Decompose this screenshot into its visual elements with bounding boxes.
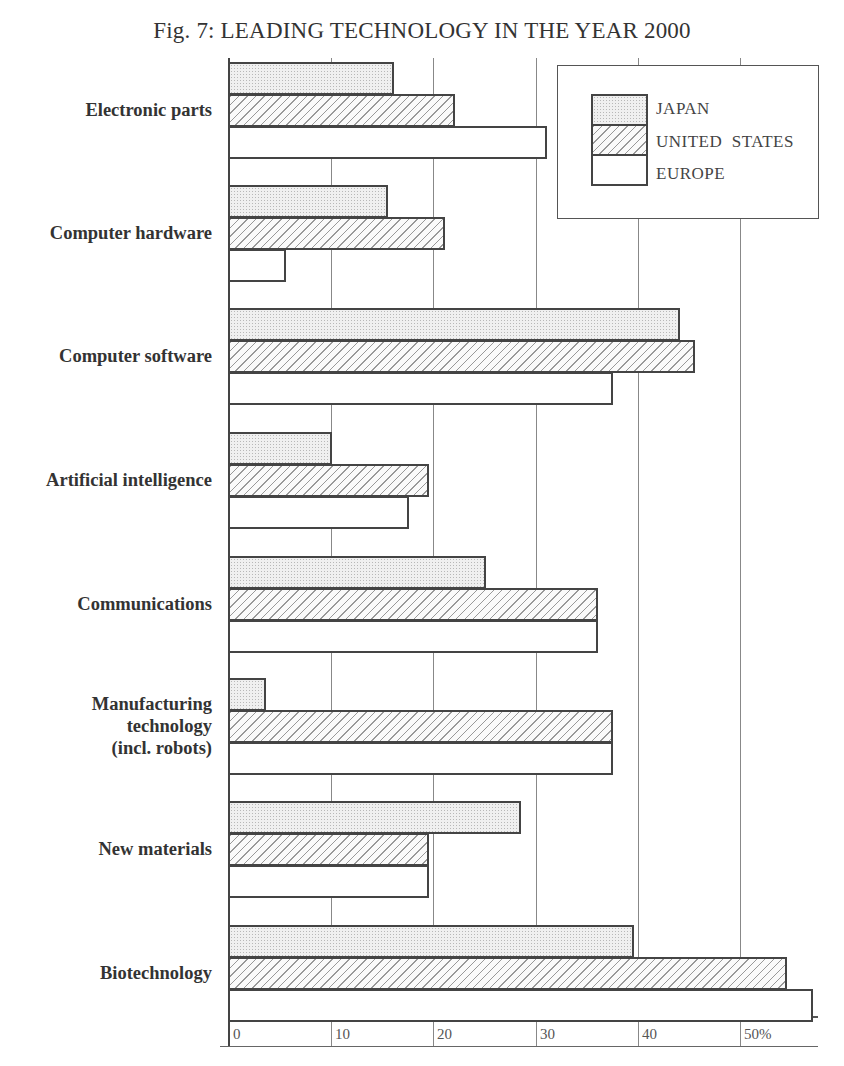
bar-united-states: [228, 464, 429, 497]
category-label: Biotechnology: [100, 962, 212, 984]
category-label: Artificial intelligence: [46, 469, 212, 491]
bar-europe: [228, 372, 613, 405]
bar-europe: [228, 249, 286, 282]
bar-japan: [228, 185, 388, 218]
x-axis-bottom-rule: [220, 1046, 818, 1047]
category-label: Manufacturing technology (incl. robots): [92, 693, 212, 759]
legend-label-japan: JAPAN: [656, 99, 710, 119]
gridline: [536, 58, 537, 1046]
bar-united-states: [228, 94, 455, 127]
x-tick-label: 40: [642, 1026, 657, 1043]
legend-swatch-japan: [591, 94, 648, 126]
legend-label-europe: EUROPE: [656, 164, 725, 184]
bar-europe: [228, 496, 409, 529]
bar-europe: [228, 126, 547, 159]
legend: JAPAN UNITED STATES EUROPE: [557, 65, 819, 219]
category-label: Electronic parts: [85, 99, 212, 121]
bar-europe: [228, 989, 813, 1022]
category-label: Computer hardware: [50, 222, 212, 244]
bar-europe: [228, 620, 598, 653]
legend-swatch-united-states: [591, 124, 648, 156]
bar-united-states: [228, 588, 598, 621]
bar-united-states: [228, 957, 787, 990]
bar-united-states: [228, 833, 429, 866]
bar-japan: [228, 556, 486, 589]
bar-japan: [228, 925, 634, 958]
bar-united-states: [228, 217, 445, 250]
category-label: Communications: [77, 593, 212, 615]
x-tick-label: 0: [233, 1026, 241, 1043]
legend-swatch-europe: [591, 154, 648, 186]
bar-united-states: [228, 340, 695, 373]
x-tick-label: 50%: [744, 1026, 772, 1043]
bar-united-states: [228, 710, 613, 743]
bar-japan: [228, 678, 266, 711]
bar-japan: [228, 432, 332, 465]
legend-label-united-states: UNITED STATES: [656, 132, 794, 152]
gridline: [433, 58, 434, 1046]
x-tick-label: 10: [335, 1026, 350, 1043]
category-label: Computer software: [59, 345, 212, 367]
category-label: New materials: [98, 838, 212, 860]
x-tick-label: 20: [437, 1026, 452, 1043]
bar-japan: [228, 308, 680, 341]
bar-japan: [228, 801, 521, 834]
x-tick-label: 30: [540, 1026, 555, 1043]
bar-japan: [228, 62, 394, 95]
bar-europe: [228, 742, 613, 775]
bar-europe: [228, 865, 429, 898]
